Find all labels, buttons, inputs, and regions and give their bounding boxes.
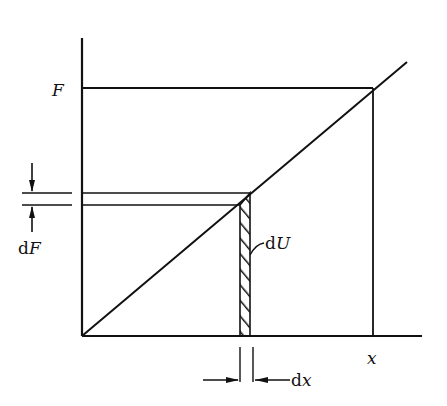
arrow-left-icon [255, 377, 268, 383]
label-dU: dU [265, 233, 291, 253]
label-dF: dF [18, 238, 42, 258]
du-strip [240, 193, 250, 336]
label-dx: dx [291, 370, 312, 390]
label-x: x [367, 348, 377, 368]
arrow-down-icon [29, 180, 35, 192]
du-leader [250, 243, 264, 255]
arrow-up-icon [29, 206, 35, 218]
arrow-right-icon [226, 377, 239, 383]
label-F: F [51, 80, 65, 100]
work-diagram: F dF dU dx x [0, 0, 447, 406]
